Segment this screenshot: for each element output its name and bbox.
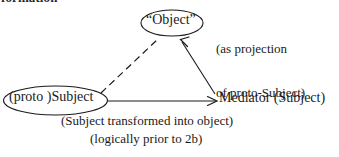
subject-node-label: (proto )Subject (9, 89, 93, 105)
object-node-label: “Object” (146, 12, 196, 28)
projection-annotation-line-2: of proto-Subject) (216, 86, 305, 101)
edge-mediator-to-object (182, 42, 215, 94)
projection-annotation-line-1: (as projection (216, 42, 305, 57)
caption-line-1: (Subject transformed into object) (61, 114, 233, 129)
caption-line-2: (logically prior to 2b) (90, 132, 202, 147)
projection-annotation: (as projection of proto-Subject) (216, 13, 305, 129)
diagram-canvas: formation “Object” (proto )Subject Media… (0, 0, 339, 157)
edge-subject-to-object (101, 39, 158, 93)
arrowhead-up-left-icon (181, 37, 190, 47)
